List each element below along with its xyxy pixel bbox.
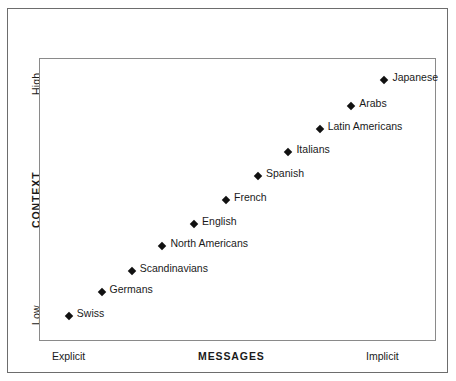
diamond-marker-icon [347, 101, 355, 109]
data-point-label: Swiss [77, 308, 104, 318]
data-point-label: Italians [296, 144, 329, 154]
data-point-label: Latin Americans [328, 121, 403, 131]
diamond-marker-icon [254, 172, 262, 180]
diamond-marker-icon [190, 219, 198, 227]
data-point-label: Germans [110, 284, 153, 294]
x-axis-tick-explicit: Explicit [52, 350, 85, 362]
diamond-marker-icon [158, 241, 166, 249]
x-axis-title: MESSAGES [198, 350, 265, 362]
data-point-label: Scandinavians [140, 263, 208, 273]
data-point-label: English [202, 216, 236, 226]
diamond-marker-icon [65, 312, 73, 320]
data-point-label: North Americans [170, 238, 248, 248]
diamond-marker-icon [97, 287, 105, 295]
data-point-label: French [234, 192, 267, 202]
data-point-label: Japanese [392, 72, 438, 82]
diamond-marker-icon [284, 148, 292, 156]
x-axis-tick-implicit: Implicit [366, 350, 399, 362]
data-point-label: Spanish [266, 168, 304, 178]
plot-area: JapaneseArabsLatin AmericansItaliansSpan… [39, 58, 436, 341]
diamond-marker-icon [127, 267, 135, 275]
context-messages-scatter-figure: High CONTEXT Low JapaneseArabsLatin Amer… [0, 0, 456, 381]
diamond-marker-icon [315, 125, 323, 133]
diamond-marker-icon [380, 76, 388, 84]
diamond-marker-icon [222, 196, 230, 204]
data-point-label: Arabs [359, 98, 386, 108]
